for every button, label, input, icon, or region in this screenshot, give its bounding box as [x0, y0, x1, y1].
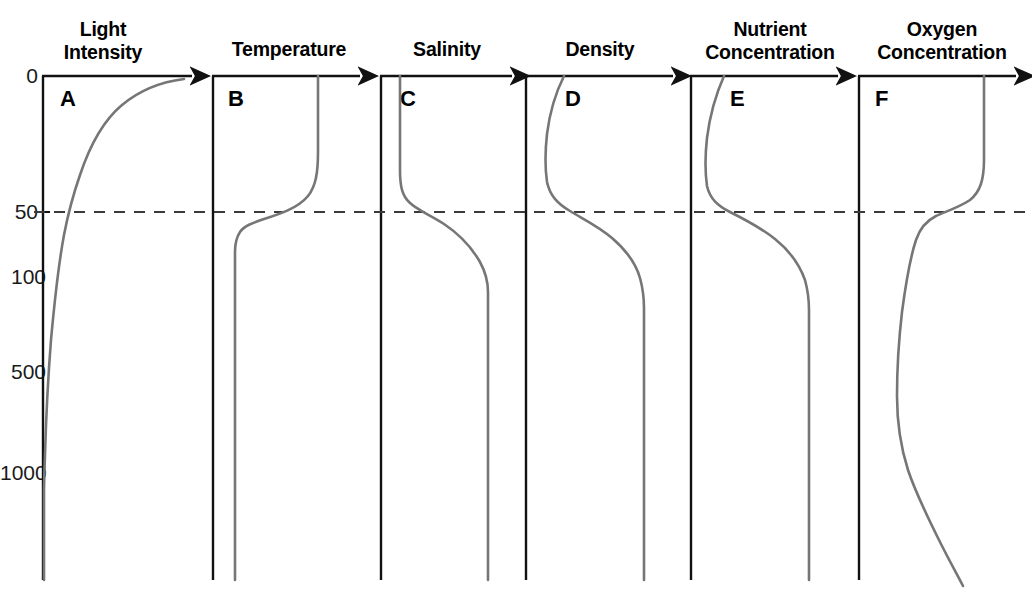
density-curve: [546, 76, 645, 580]
panel-d-axes: [525, 76, 673, 580]
light-intensity-curve: [44, 79, 184, 580]
panel-a-axes: [34, 76, 192, 580]
nutrient-concentration-curve: [706, 76, 810, 580]
panel-e-axes: [690, 76, 838, 580]
salinity-curve: [400, 76, 488, 580]
oxygen-concentration-curve: [897, 76, 984, 586]
plot-drawing-layer: [0, 0, 1032, 603]
temperature-curve: [235, 76, 318, 580]
panel-f-axes: [858, 76, 1016, 580]
ocean-depth-profile-figure: Light Intensity Temperature Salinity Den…: [0, 0, 1032, 603]
